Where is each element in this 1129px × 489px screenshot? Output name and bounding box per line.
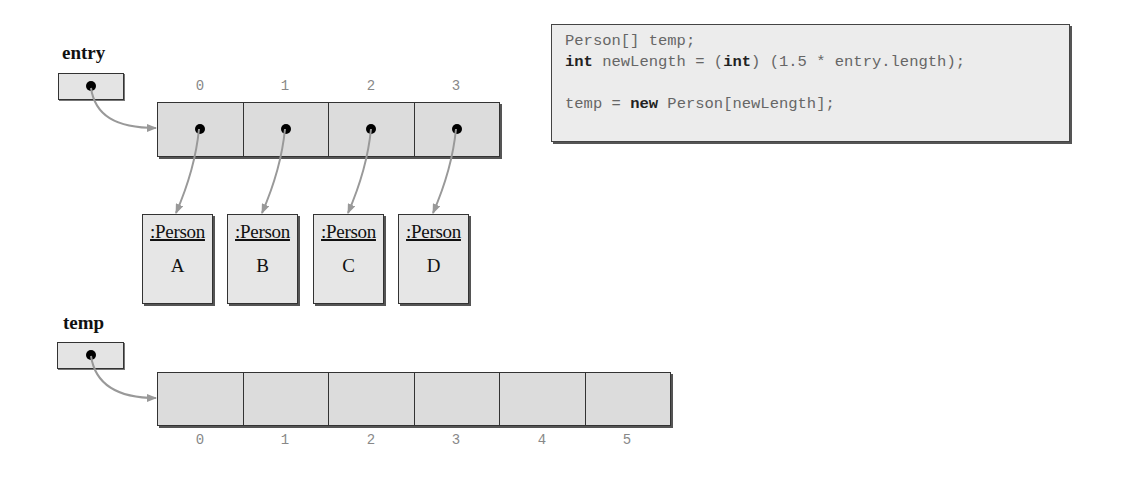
cell2-to-person-c-arrow <box>348 129 371 213</box>
reference-arrows <box>0 0 1129 489</box>
entry-to-array-arrow <box>91 88 156 128</box>
cell3-to-person-d-arrow <box>433 129 456 213</box>
cell0-to-person-a-arrow <box>176 129 199 213</box>
temp-to-array-arrow <box>91 356 156 398</box>
cell1-to-person-b-arrow <box>262 129 285 213</box>
